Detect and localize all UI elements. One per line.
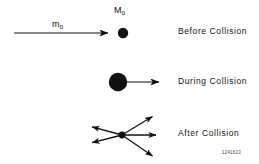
target-mass-circle [118,28,128,38]
incoming-mass-subscript: o [60,23,64,30]
stage-label-during-collision: During Collision [178,76,247,86]
collision-vertex-dot [119,132,126,139]
figure-id-code: 1241623 [222,150,241,155]
target-mass-label: Mo [114,5,125,15]
stage-during-collision [109,73,159,91]
collision-diagram: mo Mo Before Collision During Collision … [0,0,259,164]
stage-after-collision [92,117,156,157]
incoming-mass-symbol: m [52,19,60,29]
target-mass-subscript: o [122,9,126,16]
fragment-arrow-lower-left [92,135,122,143]
target-mass-symbol: M [114,5,122,15]
stage-before-collision [14,28,128,38]
fragment-arrow-upper-right [122,117,153,136]
fragment-arrow-upper-left [92,127,122,135]
stage-label-after-collision: After Collision [178,128,239,138]
incoming-mass-label: mo [52,19,63,29]
stage-label-before-collision: Before Collision [178,26,247,36]
fragment-arrow-lower-right [122,135,153,156]
